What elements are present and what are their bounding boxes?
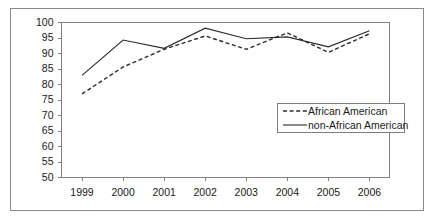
y-tick-label: 85 — [42, 62, 54, 74]
y-tick-label: 90 — [42, 47, 54, 59]
legend-dashed-line-icon — [282, 106, 308, 116]
legend-label-african-american: African American — [308, 104, 387, 118]
x-tick-label: 1999 — [70, 186, 94, 198]
y-tick-label: 50 — [42, 171, 54, 183]
x-tick-label: 2006 — [358, 186, 382, 198]
chart-series-group — [82, 28, 369, 94]
legend-label-non-african-american: non-African American — [308, 118, 408, 132]
series-line-african-american — [82, 33, 369, 94]
y-tick-label: 80 — [42, 78, 54, 90]
chart-figure: 50556065707580859095100 1999200020012002… — [0, 0, 435, 220]
x-tick-label: 2003 — [235, 186, 259, 198]
chart-axes — [62, 22, 391, 178]
y-tick-label: 75 — [42, 93, 54, 105]
y-tick-label: 100 — [36, 16, 54, 28]
y-tick-label: 55 — [42, 155, 54, 167]
y-tick-label: 70 — [42, 109, 54, 121]
x-tick-label: 2002 — [194, 186, 218, 198]
x-tick-label: 2004 — [276, 186, 300, 198]
y-axis-ticks: 50556065707580859095100 — [36, 16, 62, 183]
x-tick-label: 2000 — [111, 186, 135, 198]
y-tick-label: 95 — [42, 31, 54, 43]
x-axis-ticks: 19992000200120022003200420052006 — [70, 177, 381, 198]
x-tick-label: 2005 — [317, 186, 341, 198]
y-tick-label: 65 — [42, 124, 54, 136]
legend-item-african-american: African American — [278, 104, 404, 118]
chart-legend: African American non-African American — [277, 103, 405, 133]
y-tick-label: 60 — [42, 140, 54, 152]
legend-solid-line-icon — [282, 120, 308, 130]
legend-item-non-african-american: non-African American — [278, 118, 404, 132]
x-tick-label: 2001 — [152, 186, 176, 198]
